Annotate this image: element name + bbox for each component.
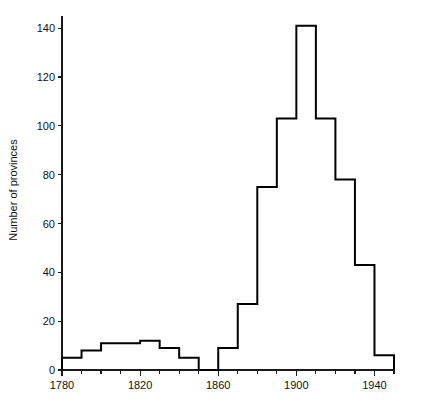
y-tick-label: 80: [43, 169, 55, 181]
y-tick-label: 140: [37, 22, 55, 34]
plot-background: [0, 0, 447, 404]
x-tick-label: 1780: [50, 379, 74, 391]
histogram-figure: 020406080100120140 17801820186019001940 …: [0, 0, 447, 404]
x-tick-label: 1900: [284, 379, 308, 391]
y-axis-title-group: Number of provinces: [7, 139, 19, 241]
x-tick-label: 1940: [362, 379, 386, 391]
x-tick-label: 1860: [206, 379, 230, 391]
y-tick-label: 0: [49, 364, 55, 376]
y-tick-label: 40: [43, 266, 55, 278]
y-tick-label: 120: [37, 71, 55, 83]
histogram-canvas: 020406080100120140 17801820186019001940 …: [0, 0, 447, 404]
y-tick-label: 60: [43, 218, 55, 230]
y-tick-label: 100: [37, 120, 55, 132]
y-axis-title: Number of provinces: [7, 139, 19, 241]
y-tick-label: 20: [43, 315, 55, 327]
x-tick-label: 1820: [128, 379, 152, 391]
